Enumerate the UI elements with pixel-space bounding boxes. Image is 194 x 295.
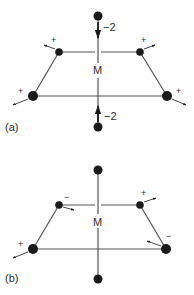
atom-back-left-b xyxy=(55,201,63,209)
phase-sign-front-right-b: − xyxy=(166,231,171,241)
panel-label-b: (b) xyxy=(5,272,18,284)
panel-b: M − + + − (b) xyxy=(5,166,171,285)
panel-label-a: (a) xyxy=(5,121,18,133)
phase-sign-front-right-a: + xyxy=(176,86,181,96)
atom-back-left-a xyxy=(55,48,63,56)
arrow-outward-icon xyxy=(172,99,186,105)
octahedral-vibration-diagram: M −2 −2 + + + + (a) M − xyxy=(0,0,194,295)
phase-sign-back-right-a: + xyxy=(141,35,146,45)
center-label-b: M xyxy=(93,216,102,228)
phase-sign-back-left-a: + xyxy=(51,35,56,45)
panel-a: M −2 −2 + + + + (a) xyxy=(5,12,186,134)
atom-front-left-b xyxy=(28,244,38,254)
atom-front-left-a xyxy=(28,91,38,101)
atom-axial-top-b xyxy=(94,166,103,175)
arrow-inward-icon xyxy=(63,207,74,210)
phase-sign-back-left-b: − xyxy=(64,192,69,202)
arrow-outward-icon xyxy=(144,198,156,202)
atom-back-right-a xyxy=(136,48,144,56)
arrow-inward-icon xyxy=(147,241,161,246)
atom-back-right-b xyxy=(136,201,144,209)
atom-axial-top-a xyxy=(94,12,103,21)
charge-label-top-a: −2 xyxy=(103,21,116,33)
arrow-outward-icon xyxy=(13,99,28,105)
atom-front-right-b xyxy=(161,244,171,254)
arrow-outward-icon xyxy=(144,45,155,49)
arrow-outward-icon xyxy=(44,45,55,49)
phase-sign-back-right-b: + xyxy=(141,188,146,198)
arrow-outward-icon xyxy=(13,252,28,258)
charge-label-bottom-a: −2 xyxy=(104,110,117,122)
phase-sign-front-left-a: + xyxy=(18,86,23,96)
atom-axial-bottom-b xyxy=(94,275,103,284)
center-label-a: M xyxy=(93,64,102,76)
atom-axial-bottom-a xyxy=(94,123,103,132)
phase-sign-front-left-b: + xyxy=(18,239,23,249)
atom-front-right-a xyxy=(162,91,172,101)
